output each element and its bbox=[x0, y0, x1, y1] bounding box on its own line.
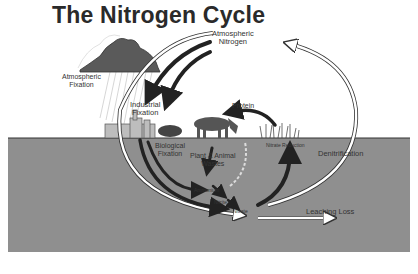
shrub-icon bbox=[158, 125, 182, 137]
label-atmospheric-nitrogen: Atmospheric Nitrogen bbox=[212, 30, 254, 46]
arrow-industrial-fixation bbox=[168, 52, 210, 100]
label-plant-animal-wastes: Plant & Animal Wastes bbox=[190, 152, 236, 168]
label-nitrite: Nitrite bbox=[214, 199, 227, 205]
label-nitrate: Nitrate bbox=[233, 208, 248, 214]
nitrogen-cycle-diagram bbox=[0, 0, 418, 274]
label-atmospheric-fixation: Atmospheric Fixation bbox=[62, 73, 101, 89]
grass-icon bbox=[260, 122, 299, 138]
cow-icon bbox=[194, 117, 238, 138]
label-nitrate-reduction: Nitrate Reduction bbox=[266, 142, 305, 148]
label-leaching-loss: Leaching Loss bbox=[306, 208, 354, 216]
label-protein: Protein bbox=[232, 102, 254, 110]
arrow-protein bbox=[232, 110, 275, 125]
label-industrial-fixation: Industrial Fixation bbox=[130, 101, 160, 117]
arrow-atmospheric-fixation bbox=[150, 42, 210, 95]
label-biological-fixation: Biological Fixation bbox=[155, 142, 185, 158]
label-denitrification: Denitrification bbox=[318, 150, 363, 158]
label-ammonium: Ammonium bbox=[194, 187, 219, 193]
